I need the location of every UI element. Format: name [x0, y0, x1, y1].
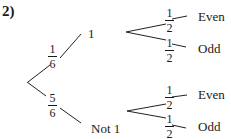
outcome-1-even: Even: [198, 10, 225, 23]
prob-not1-even: 12: [165, 84, 174, 111]
branch-not1-to-even: [127, 104, 166, 111]
outcome-1-odd: Odd: [198, 42, 220, 55]
prob-1: 16: [48, 43, 57, 70]
prob-not1-odd: 12: [165, 113, 174, 139]
prob-1-even: 12: [165, 7, 174, 34]
prob-1-odd: 12: [165, 37, 174, 64]
branch-root-to-1: [28, 65, 50, 82]
outcome-1: 1: [88, 27, 95, 40]
branch-1-to-odd: [126, 32, 166, 40]
branch-1-to-even: [126, 24, 166, 32]
outcome-not1-even: Even: [198, 88, 225, 101]
tree-branches: [0, 0, 231, 139]
branch-root-to-1-upper: [60, 34, 81, 58]
prob-not-1: 56: [48, 92, 57, 119]
outcome-not1-odd: Odd: [198, 120, 220, 133]
branch-root-to-not1-lower: [60, 108, 81, 123]
branch-root-to-not1: [27, 82, 46, 96]
branch-not1-to-odd: [127, 111, 166, 118]
outcome-not-1: Not 1: [91, 122, 120, 135]
